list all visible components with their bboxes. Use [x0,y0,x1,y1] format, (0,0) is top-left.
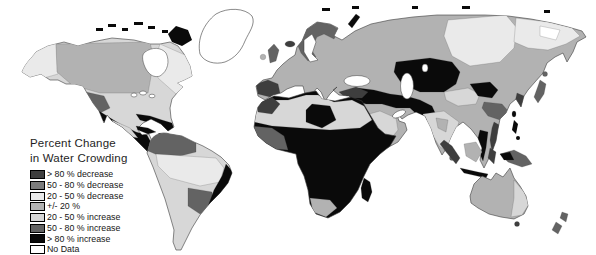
island-speck [512,120,518,134]
map-legend: Percent Change in Water Crowding > 80 % … [30,136,128,255]
island-speck [134,22,143,25]
island-speck [516,136,520,140]
nz-south-island [552,222,562,234]
legend-row: 20 - 50 % increase [30,212,128,223]
legend-row: 50 - 80 % decrease [30,180,128,191]
region-tasmania [515,222,520,227]
legend-label: > 80 % decrease [47,170,113,179]
region-alaska [18,42,58,80]
svalbard [322,8,330,11]
lake [131,93,137,97]
region-korea [515,93,524,108]
legend-title-line1: Percent Change [30,136,128,151]
new-siberian-islands [462,6,470,9]
legend-label: > 80 % increase [47,235,110,244]
region-iceland [285,41,295,47]
legend-swatch [30,224,45,233]
legend-swatch [30,170,45,179]
legend-swatch [30,192,45,201]
legend-swatch [30,213,45,222]
legend-swatch [30,202,45,211]
legend-row: > 80 % decrease [30,169,128,180]
region-taiwan [512,111,516,117]
legend-label: 20 - 50 % increase [47,213,120,222]
region-new-zealand [552,212,568,234]
region-britain [268,44,279,63]
legend-row: 50 - 80 % increase [30,223,128,234]
black-sea [344,76,370,87]
island-speck [108,24,116,27]
caspian-sea [401,73,414,99]
nz-north-island [560,212,568,222]
legend-title: Percent Change in Water Crowding [30,136,128,165]
region-borneo [464,142,482,162]
legend-row: > 80 % increase [30,234,128,245]
island-speck [162,30,168,33]
legend-row: +/- 20 % [30,202,128,213]
island-speck [122,28,128,31]
lake [149,94,155,98]
region-japan [534,80,546,103]
aral-sea [422,64,428,72]
legend-label: 50 - 80 % increase [47,224,120,233]
legend-row: No Data [30,244,128,255]
legend-swatch [30,181,45,190]
legend-label: No Data [47,245,79,254]
region-madagascar [361,178,372,202]
region-canada-west [56,42,154,93]
severnaya-zemlya [412,6,418,9]
legend-swatch [30,234,45,243]
island-speck [148,26,155,29]
figure-canvas: Percent Change in Water Crowding > 80 % … [0,0,596,255]
legend-label: 50 - 80 % decrease [47,181,123,190]
legend-label: 20 - 50 % decrease [47,192,123,201]
legend-items: > 80 % decrease 50 - 80 % decrease 20 - … [30,169,128,255]
legend-title-line2: in Water Crowding [30,151,128,166]
lake [140,91,147,95]
region-philippines [512,120,520,140]
region-venezuela-colombia [146,132,196,156]
novaya-zemlya-island [348,14,360,28]
franz-josef-land [352,6,359,9]
region-ireland [260,54,266,60]
wrangel-island [544,10,550,13]
region-hokkaido [543,72,548,77]
legend-label: +/- 20 % [47,202,80,211]
island-speck [96,28,103,31]
region-greenland [199,9,253,63]
legend-row: 20 - 50 % decrease [30,191,128,202]
legend-swatch [30,245,45,254]
